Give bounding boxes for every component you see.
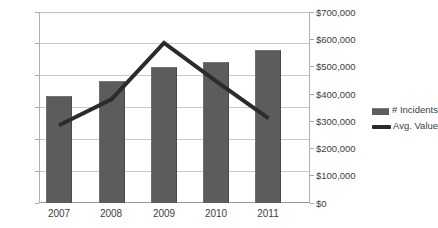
right-axis-tick-label: $0 [316, 198, 327, 209]
legend-label-avg-value: Avg. Value [393, 120, 438, 131]
category-label-2011: 2011 [245, 208, 291, 219]
legend-item-incidents[interactable]: # Incidents [372, 103, 437, 119]
category-label-2008: 2008 [88, 208, 134, 219]
right-axis-tick-label: $600,000 [316, 34, 356, 45]
right-axis-tick-mark [310, 121, 314, 122]
legend-label-incidents: # Incidents [392, 104, 438, 115]
bar-2007[interactable] [46, 96, 72, 203]
category-label-2009: 2009 [141, 208, 187, 219]
right-axis-tick-label: $300,000 [316, 116, 356, 127]
category-label-2007: 2007 [36, 208, 82, 219]
right-axis-tick-mark [310, 39, 314, 40]
left-axis-tick-mark [35, 203, 39, 204]
chart-legend: # Incidents Avg. Value [372, 103, 437, 135]
right-axis-tick-mark [310, 175, 314, 176]
right-axis-tick-label: $500,000 [316, 61, 356, 72]
right-axis-tick-label: $400,000 [316, 89, 356, 100]
right-axis-tick-label: $200,000 [316, 143, 356, 154]
gridline [39, 43, 310, 44]
bar-2010[interactable] [203, 62, 229, 203]
right-axis-tick-mark [310, 203, 314, 204]
plot-left-border [39, 12, 40, 203]
line-swatch-icon [372, 125, 391, 129]
right-axis-tick-mark [310, 12, 314, 13]
gridline [39, 12, 310, 13]
right-axis-tick-mark [310, 148, 314, 149]
bar-2008[interactable] [99, 81, 125, 203]
right-axis-tick-label: $100,000 [316, 170, 356, 181]
right-axis-tick-label: $700,000 [316, 7, 356, 18]
right-axis-tick-mark [310, 66, 314, 67]
category-label-2010: 2010 [193, 208, 239, 219]
legend-item-avg-value[interactable]: Avg. Value [372, 119, 437, 135]
bar-2011[interactable] [255, 50, 281, 203]
right-axis-tick-mark [310, 94, 314, 95]
bar-2009[interactable] [151, 67, 177, 204]
plot-area [39, 12, 310, 203]
bar-swatch-icon [372, 108, 389, 115]
